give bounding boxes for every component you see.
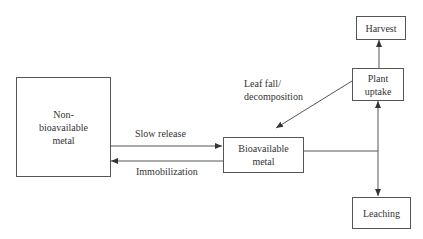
node-label-line: Plant bbox=[365, 72, 392, 85]
node-label-line: metal bbox=[39, 134, 88, 147]
node-bioavailable-metal: Bioavailable metal bbox=[223, 137, 304, 173]
edge-label-line: decomposition bbox=[244, 90, 303, 103]
edge-label-line: Leaf fall/ bbox=[244, 77, 303, 90]
node-harvest: Harvest bbox=[356, 16, 406, 40]
edge-label-leaf-fall: Leaf fall/ decomposition bbox=[244, 77, 303, 103]
node-label-line: uptake bbox=[365, 85, 392, 98]
edge-label-immobilization: Immobilization bbox=[136, 165, 198, 178]
node-plant-uptake: Plant uptake bbox=[352, 68, 404, 101]
node-label-line: Non- bbox=[39, 108, 88, 121]
node-label: Harvest bbox=[365, 22, 396, 35]
edge-label-slow-release: Slow release bbox=[135, 127, 186, 140]
node-label-line: metal bbox=[238, 155, 289, 168]
node-non-bioavailable-metal: Non- bioavailable metal bbox=[16, 77, 111, 177]
node-leaching: Leaching bbox=[352, 197, 411, 229]
node-label-line: bioavailable bbox=[39, 121, 88, 134]
node-label: Leaching bbox=[363, 207, 400, 220]
node-label-line: Bioavailable bbox=[238, 142, 289, 155]
